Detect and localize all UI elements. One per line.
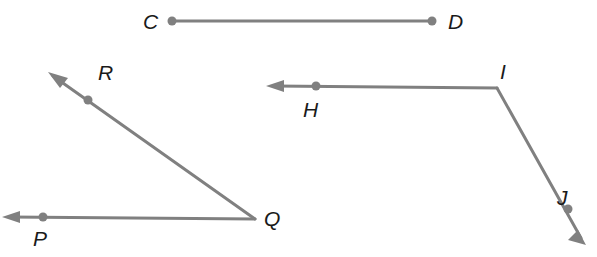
point-r-dot bbox=[84, 96, 93, 105]
geometry-drawing bbox=[0, 0, 597, 257]
ray-qp-arrowhead bbox=[2, 211, 20, 223]
point-label-i: I bbox=[500, 61, 506, 82]
point-label-q: Q bbox=[264, 208, 280, 229]
point-h-dot bbox=[312, 82, 321, 91]
point-d-dot bbox=[428, 17, 437, 26]
ray-ij-arrowhead bbox=[568, 230, 586, 245]
ray-ih-arrowhead bbox=[266, 80, 284, 92]
ray-ih-line bbox=[274, 86, 497, 88]
point-p-dot bbox=[39, 213, 48, 222]
ray-qr-line bbox=[53, 76, 255, 219]
geometry-figure-canvas: C D R P Q H I J bbox=[0, 0, 597, 257]
point-c-dot bbox=[168, 17, 177, 26]
point-label-h: H bbox=[303, 99, 318, 120]
point-label-p: P bbox=[33, 228, 47, 249]
point-label-d: D bbox=[448, 11, 463, 32]
point-label-j: J bbox=[557, 187, 568, 208]
segment-cd-group bbox=[168, 17, 437, 26]
angle-pqr-group bbox=[2, 72, 255, 223]
ray-ij-line bbox=[497, 88, 581, 238]
point-label-r: R bbox=[98, 62, 113, 83]
point-label-c: C bbox=[143, 11, 158, 32]
